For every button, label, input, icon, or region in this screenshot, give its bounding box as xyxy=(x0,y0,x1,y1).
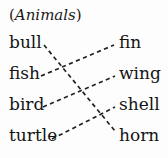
right-term-wing[interactable]: wing xyxy=(119,63,161,83)
connector-turtle-shell xyxy=(52,107,115,139)
right-term-shell[interactable]: shell xyxy=(119,94,160,114)
left-term-bird[interactable]: bird xyxy=(9,94,44,114)
page-title: (Animals) xyxy=(9,6,82,24)
connector-bull-horn xyxy=(44,45,115,131)
left-term-fish[interactable]: fish xyxy=(9,63,40,83)
left-term-turtle[interactable]: turtle xyxy=(9,125,57,145)
title-close-paren: ) xyxy=(76,6,82,24)
title-category: Animals xyxy=(15,6,76,24)
matching-exercise-canvas: (Animals) bull fish bird turtle fin wing… xyxy=(0,0,168,158)
right-term-fin[interactable]: fin xyxy=(119,32,141,52)
connector-fish-fin xyxy=(41,45,114,76)
right-term-horn[interactable]: horn xyxy=(119,125,159,145)
connector-bird-wing xyxy=(43,76,115,107)
left-term-bull[interactable]: bull xyxy=(9,32,42,52)
